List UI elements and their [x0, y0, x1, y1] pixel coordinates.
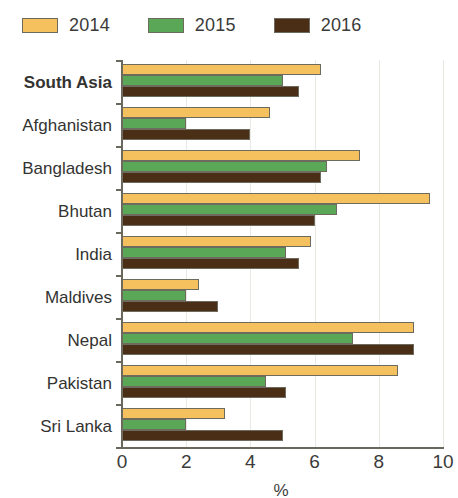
category-label: Bhutan: [58, 202, 112, 219]
bar-2014: [122, 150, 360, 161]
y-axis-tick: [116, 60, 122, 62]
x-axis-tick-label: 10: [423, 452, 458, 471]
category-label: Maldives: [45, 288, 112, 305]
category-label: South Asia: [24, 73, 112, 90]
bar-group: Pakistan: [122, 361, 443, 404]
legend-item: 2015: [148, 16, 236, 34]
bar-2015: [122, 75, 283, 86]
x-axis-tick-label: 4: [230, 452, 270, 471]
legend-label: 2014: [69, 16, 110, 34]
category-label: Afghanistan: [22, 116, 112, 133]
bar-2015: [122, 333, 353, 344]
category-label: Bangladesh: [22, 159, 112, 176]
bar-2015: [122, 419, 186, 430]
bar-2015: [122, 290, 186, 301]
y-axis-tick: [116, 146, 122, 148]
chart-legend: 201420152016: [0, 8, 452, 42]
bar-group: Nepal: [122, 318, 443, 361]
bar-2015: [122, 247, 286, 258]
x-axis-tick-label: 6: [295, 452, 335, 471]
bar-2014: [122, 64, 321, 75]
bar-2016: [122, 387, 286, 398]
y-axis-tick: [116, 318, 122, 320]
bar-2016: [122, 344, 414, 355]
bar-2014: [122, 107, 270, 118]
legend-item: 2014: [22, 16, 110, 34]
y-axis-tick: [116, 189, 122, 191]
y-axis-tick: [116, 404, 122, 406]
bar-2015: [122, 376, 266, 387]
bar-group: Bhutan: [122, 189, 443, 232]
bar-group: Maldives: [122, 275, 443, 318]
bar-2015: [122, 161, 327, 172]
legend-swatch: [148, 18, 184, 33]
bar-2016: [122, 86, 299, 97]
legend-label: 2016: [321, 16, 362, 34]
legend-label: 2015: [195, 16, 236, 34]
x-axis-line: [121, 447, 444, 449]
legend-swatch: [22, 18, 58, 33]
plot-area: South AsiaAfghanistanBangladeshBhutanInd…: [122, 60, 443, 447]
bar-2014: [122, 236, 311, 247]
bar-2014: [122, 193, 430, 204]
bar-2016: [122, 430, 283, 441]
y-axis-tick: [116, 275, 122, 277]
y-axis-tick: [116, 447, 122, 449]
bar-group: Bangladesh: [122, 146, 443, 189]
bar-2016: [122, 258, 299, 269]
legend-item: 2016: [274, 16, 362, 34]
bar-2016: [122, 172, 321, 183]
bar-2014: [122, 279, 199, 290]
y-axis-tick: [116, 103, 122, 105]
y-axis-tick: [116, 361, 122, 363]
bar-2016: [122, 215, 315, 226]
bar-group: India: [122, 232, 443, 275]
category-label: Nepal: [68, 331, 112, 348]
bar-2015: [122, 118, 186, 129]
gridline: [443, 60, 444, 447]
x-axis-tick-label: 8: [359, 452, 399, 471]
legend-swatch: [274, 18, 310, 33]
bar-2014: [122, 365, 398, 376]
x-axis-tick-label: 2: [166, 452, 206, 471]
bar-group: South Asia: [122, 60, 443, 103]
bar-2014: [122, 322, 414, 333]
x-axis-title: %: [0, 482, 452, 498]
bar-2016: [122, 301, 218, 312]
bar-group: Sri Lanka: [122, 404, 443, 447]
bar-2014: [122, 408, 225, 419]
category-label: India: [75, 245, 112, 262]
bar-group: Afghanistan: [122, 103, 443, 146]
category-label: Pakistan: [47, 374, 112, 391]
bar-2015: [122, 204, 337, 215]
x-axis-tick-label: 0: [102, 452, 142, 471]
y-axis-tick: [116, 232, 122, 234]
bar-2016: [122, 129, 250, 140]
category-label: Sri Lanka: [40, 417, 112, 434]
